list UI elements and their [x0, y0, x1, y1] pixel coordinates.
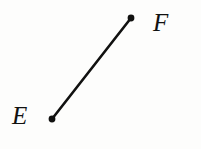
geometry-figure: E F [0, 0, 201, 149]
figure-background [0, 0, 201, 149]
endpoint-dot-f [128, 15, 135, 22]
endpoint-dot-e [49, 116, 56, 123]
point-label-e: E [12, 103, 27, 128]
point-label-f: F [153, 10, 168, 35]
figure-canvas [0, 0, 201, 149]
